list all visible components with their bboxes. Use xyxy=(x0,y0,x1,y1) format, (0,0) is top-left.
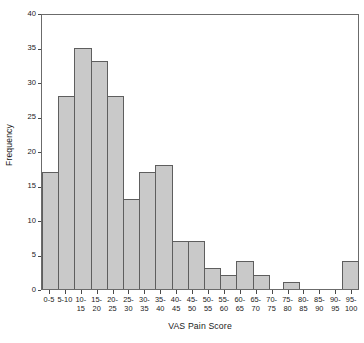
x-axis-tick-mark xyxy=(288,290,289,294)
histogram-bar xyxy=(74,48,91,290)
y-axis-tick-label: 0 xyxy=(32,285,36,294)
histogram-bar xyxy=(42,172,59,289)
x-axis-tick-mark xyxy=(144,290,145,294)
y-axis-tick-label: 20 xyxy=(28,147,36,156)
y-axis-tick-label: 30 xyxy=(28,78,36,87)
x-axis-tick-mark xyxy=(128,290,129,294)
x-axis-tick-mark xyxy=(192,290,193,294)
y-axis-tick-label: 25 xyxy=(28,112,36,121)
y-axis-title: Frequency xyxy=(2,0,16,290)
x-axis-title: VAS Pain Score xyxy=(41,321,359,331)
x-axis-tick-label-second-line: 100 xyxy=(340,304,362,313)
histogram-bar xyxy=(342,261,359,289)
histogram-bar xyxy=(204,268,221,289)
y-axis-tick-label: 15 xyxy=(28,181,36,190)
x-axis-tick-mark xyxy=(240,290,241,294)
histogram-bar xyxy=(253,275,270,289)
x-axis-tick-mark xyxy=(272,290,273,294)
x-axis-tick-label: 95- xyxy=(340,295,362,304)
y-axis: 0510152025303540 xyxy=(16,14,41,290)
plot-area xyxy=(41,14,359,290)
x-axis-tick: 95-100 xyxy=(343,290,359,320)
histogram-bar xyxy=(283,282,300,289)
y-axis-title-text: Frequency xyxy=(4,124,14,166)
x-axis-tick-mark xyxy=(208,290,209,294)
x-axis-tick-mark xyxy=(160,290,161,294)
x-axis-tick-mark xyxy=(113,290,114,294)
histogram-figure: Frequency 0510152025303540 0-55-1010-151… xyxy=(0,0,364,343)
x-axis: 0-55-1010-1515-2020-2525-3030-3535-4040-… xyxy=(41,290,359,320)
x-axis-tick-mark xyxy=(224,290,225,294)
y-axis-tick-label: 40 xyxy=(28,9,36,18)
x-axis-tick-mark xyxy=(176,290,177,294)
histogram-bar xyxy=(236,261,253,289)
y-axis-tick-label: 5 xyxy=(32,250,36,259)
y-axis-tick-label: 10 xyxy=(28,216,36,225)
histogram-bar xyxy=(107,96,124,289)
histogram-bar xyxy=(123,199,140,289)
histogram-bar xyxy=(91,61,108,289)
bar-series xyxy=(42,15,358,289)
x-axis-tick-mark xyxy=(65,290,66,294)
histogram-bar xyxy=(220,275,237,289)
x-axis-tick-mark xyxy=(49,290,50,294)
x-axis-tick-mark xyxy=(319,290,320,294)
x-axis-tick-mark xyxy=(335,290,336,294)
x-axis-tick-mark xyxy=(256,290,257,294)
histogram-bar xyxy=(58,96,75,289)
x-axis-tick-mark xyxy=(351,290,352,294)
x-axis-tick-mark xyxy=(303,290,304,294)
histogram-bar xyxy=(188,241,205,289)
histogram-bar xyxy=(155,165,172,289)
y-axis-tick-label: 35 xyxy=(28,43,36,52)
histogram-bar xyxy=(172,241,189,289)
x-axis-tick-mark xyxy=(81,290,82,294)
x-axis-tick-mark xyxy=(97,290,98,294)
histogram-bar xyxy=(139,172,156,289)
